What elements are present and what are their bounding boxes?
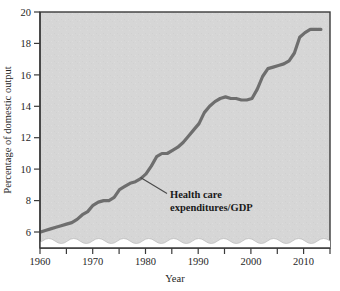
y-tick-label-16: 16 [21,70,32,81]
y-axis-title: Percentage of domestic output [2,66,13,194]
x-tick-label-1960: 1960 [30,256,51,267]
y-tick-label-8: 8 [26,195,31,206]
x-tick-label-1980: 1980 [135,256,156,267]
x-tick-label-2010: 2010 [293,256,314,267]
x-axis-title: Year [165,273,185,284]
y-tick-label-12: 12 [21,132,32,143]
x-tick-label-2000: 2000 [240,256,261,267]
x-tick-label-1990: 1990 [188,256,209,267]
y-tick-label-20: 20 [21,7,32,18]
y-tick-label-6: 6 [26,227,31,238]
y-axis: 20 18 16 14 12 10 8 6 [21,7,41,248]
annotation-label-line1: Health care [170,189,222,200]
chart-canvas: 20 18 16 14 12 10 8 6 1960 1970 [0,0,340,291]
x-tick-label-1970: 1970 [82,256,103,267]
x-axis: 1960 1970 1980 1990 2000 2010 [30,248,331,267]
y-tick-label-10: 10 [21,164,32,175]
health-care-expenditure-chart-figure: 20 18 16 14 12 10 8 6 1960 1970 [0,0,340,291]
y-tick-label-14: 14 [21,101,32,112]
y-tick-label-18: 18 [21,38,32,49]
annotation-label-line2: expenditures/GDP [170,202,253,213]
